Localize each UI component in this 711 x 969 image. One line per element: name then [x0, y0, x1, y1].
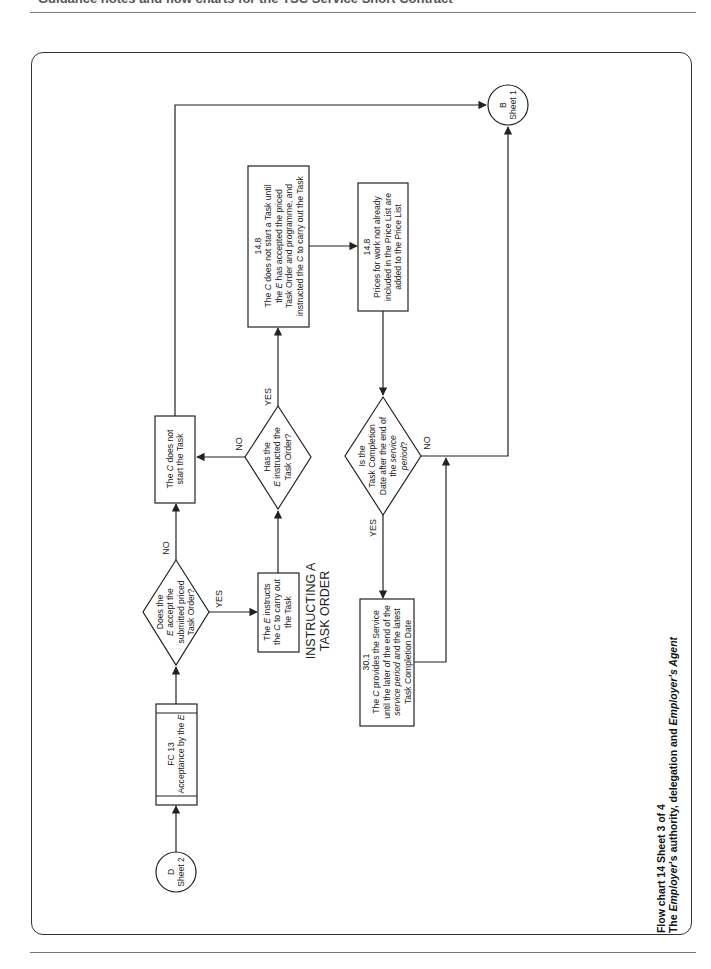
line: The C does not: [165, 430, 175, 489]
text: 's authority, delegation and: [666, 725, 678, 863]
line: Task Order?: [283, 427, 293, 487]
text: accept the: [166, 588, 176, 630]
text-em: Employer: [666, 864, 678, 912]
line: Has the: [262, 427, 272, 487]
text: to carry out the Task: [295, 176, 305, 256]
text-em: C: [263, 284, 273, 290]
text: The: [371, 697, 381, 714]
line: Date after the end of: [378, 417, 388, 495]
flowchart-canvas: [0, 0, 711, 969]
clause-ref: 30.1: [361, 605, 371, 719]
line: Task Order and programme, and: [284, 176, 294, 316]
line: Is the: [357, 417, 367, 495]
text-em: period: [399, 446, 409, 470]
line: service period and the latest: [392, 605, 402, 719]
line: E instructed the: [273, 427, 283, 487]
text-em: Employer's Agent: [666, 637, 678, 725]
fc13-ref: FC 13: [166, 715, 176, 794]
line: E accept the: [166, 580, 176, 643]
text-em: C: [165, 465, 175, 471]
line: The C provides the Service: [371, 605, 381, 719]
text: does not: [165, 430, 175, 465]
text: Acceptance by the: [176, 720, 186, 793]
line: start the Task: [175, 430, 185, 489]
line: Task Order?: [186, 580, 196, 643]
line: Task Completion Date: [403, 605, 413, 719]
line: the service: [388, 417, 398, 495]
fc13-text: Acceptance by the E: [176, 715, 186, 794]
clause-ref: 14.8: [253, 176, 263, 316]
text-em: E: [273, 481, 283, 487]
line: period?: [399, 417, 409, 495]
line: The C does not start a Task until: [263, 176, 273, 316]
edge-label-completion-yes: YES: [368, 519, 378, 537]
line: included in the Price List are: [383, 193, 393, 301]
line: Prices for work not already: [373, 193, 383, 301]
decision-accept-task-order: Does the E accept the submitted priced T…: [155, 580, 197, 643]
section-label-instructing-task-order: INSTRUCTING A TASK ORDER: [304, 563, 332, 660]
flowchart-caption: Flow chart 14 Sheet 3 of 4 The Employer'…: [656, 637, 679, 933]
line: instructed the C to carry out the Task: [295, 176, 305, 316]
text-em: service period: [392, 662, 402, 716]
line: INSTRUCTING A: [304, 563, 318, 660]
line: TASK ORDER: [318, 563, 332, 660]
connector-id: B: [498, 90, 508, 120]
text: The: [263, 290, 273, 307]
line: The E instructs: [262, 579, 272, 645]
edge-label-instructed-yes: YES: [263, 388, 273, 406]
text-em: E: [274, 283, 284, 289]
connector-sheet: Sheet 1: [508, 90, 518, 120]
text: the: [274, 289, 284, 303]
text: instructed the: [273, 427, 283, 481]
text: ?: [399, 442, 409, 447]
line: submitted priced: [176, 580, 186, 643]
text: The: [262, 623, 272, 640]
line: until the later of the end of the: [382, 605, 392, 719]
text-em: C: [295, 256, 305, 262]
decision-completion-after-period: Is the Task Completion Date after the en…: [357, 417, 409, 495]
edge-label-accept-yes: YES: [214, 590, 224, 608]
connector-b-sheet1: B Sheet 1: [498, 90, 519, 120]
connector-sheet: Sheet 2: [176, 857, 186, 887]
line: the Task: [283, 579, 293, 645]
text: to carry out: [273, 579, 283, 624]
connector-id: D: [166, 857, 176, 887]
clause-ref: 14.8: [362, 193, 372, 301]
clause-14-8-start-box: 14.8 The C does not start a Task until t…: [253, 176, 305, 316]
text: instructs: [262, 583, 272, 617]
edge-label-completion-no: NO: [422, 436, 432, 450]
line: the C to carry out: [273, 579, 283, 645]
decision-instructed-task-order: Has the E instructed the Task Order?: [262, 427, 293, 487]
text-em: service: [388, 435, 398, 462]
clause-14-8-prices-box: 14.8 Prices for work not already include…: [362, 193, 404, 301]
edge-label-instructed-no: NO: [234, 437, 244, 451]
text-em: E: [262, 618, 272, 624]
text: The: [165, 471, 175, 488]
text: and the latest: [392, 608, 402, 662]
text: the: [388, 462, 398, 476]
line: Does the: [155, 580, 165, 643]
text: The: [666, 911, 678, 933]
e-instructs-box: The E instructs the C to carry out the T…: [262, 579, 293, 645]
text: does not start a Task until: [263, 184, 273, 284]
edge-label-accept-no: NO: [161, 541, 171, 555]
connector-d-sheet2: D Sheet 2: [166, 857, 187, 887]
text: provides the Service: [371, 610, 381, 690]
text-em: C: [273, 624, 283, 630]
line: added to the Price List: [393, 193, 403, 301]
line: the E has accepted the priced: [274, 176, 284, 316]
text: the: [273, 631, 283, 645]
line: Task Completion: [367, 417, 377, 495]
text: has accepted the priced: [274, 189, 284, 283]
text-em: E: [176, 715, 186, 721]
c-does-not-start-box: The C does not start the Task: [165, 430, 186, 489]
text-em: E: [166, 630, 176, 636]
caption-line2: The Employer's authority, delegation and…: [667, 637, 679, 933]
text-em: C: [371, 690, 381, 696]
fc13-process-box: FC 13 Acceptance by the E: [166, 715, 187, 794]
text: instructed the: [295, 262, 305, 316]
clause-30-1-box: 30.1 The C provides the Service until th…: [361, 605, 413, 719]
